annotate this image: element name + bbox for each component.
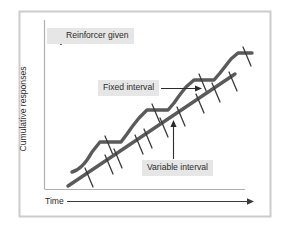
figure-container: Reinforcer given Fixed interval Variable…: [0, 0, 287, 232]
annotation-fixed-interval: Fixed interval: [98, 80, 159, 96]
y-axis-label: Cumulative responses: [18, 49, 28, 169]
fixed-interval-label: Fixed interval: [103, 82, 154, 92]
legend-label: Reinforcer given: [66, 30, 129, 40]
legend-reinforcer-given: Reinforcer given: [47, 28, 134, 44]
cumulative-response-chart: [0, 0, 287, 232]
annotation-variable-interval: Variable interval: [142, 160, 213, 176]
fixed-interval-curve: [72, 53, 252, 172]
variable-interval-pointer-arrow: [170, 120, 176, 159]
x-axis-arrow: [67, 198, 254, 204]
x-axis-label: Time: [45, 196, 64, 206]
variable-interval-label: Variable interval: [147, 162, 208, 172]
